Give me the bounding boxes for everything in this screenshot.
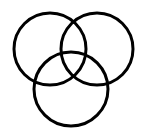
venn-diagram (0, 0, 145, 138)
circle-left (14, 13, 86, 85)
circle-right (61, 13, 133, 85)
circle-bottom (34, 52, 108, 126)
